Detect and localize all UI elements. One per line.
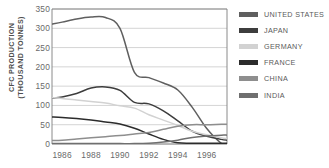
x-tick-label: 1992 xyxy=(139,150,158,160)
legend-item-label: UNITED STATES xyxy=(264,10,324,19)
legend-item[interactable]: GERMANY xyxy=(239,38,329,54)
x-tick-label: 1990 xyxy=(110,150,129,160)
legend-item[interactable]: JAPAN xyxy=(239,22,329,38)
legend: UNITED STATESJAPANGERMANYFRANCECHINAINDI… xyxy=(239,6,329,103)
legend-swatch-icon xyxy=(239,28,258,33)
legend-swatch-icon xyxy=(239,93,258,98)
legend-item-label: FRANCE xyxy=(264,58,296,67)
x-tick-label: 1988 xyxy=(81,150,100,160)
legend-swatch-icon xyxy=(239,60,258,65)
x-tick-label: 1986 xyxy=(52,150,71,160)
cfc-production-line-chart: CFC PRODUCTION(THOUSAND TONNES) 05010015… xyxy=(0,0,329,168)
legend-item[interactable]: UNITED STATES xyxy=(239,6,329,22)
legend-item-label: INDIA xyxy=(264,91,285,100)
legend-item-label: GERMANY xyxy=(264,42,303,51)
series-line-japan xyxy=(52,87,227,140)
legend-item[interactable]: FRANCE xyxy=(239,55,329,71)
legend-item-label: CHINA xyxy=(264,74,288,83)
legend-item-label: JAPAN xyxy=(264,26,288,35)
series-lines xyxy=(52,16,227,144)
legend-swatch-icon xyxy=(239,76,258,81)
series-line-china xyxy=(52,124,227,140)
legend-item[interactable]: CHINA xyxy=(239,71,329,87)
legend-item[interactable]: INDIA xyxy=(239,87,329,103)
legend-swatch-icon xyxy=(239,44,258,49)
x-tick-label: 1996 xyxy=(197,150,216,160)
x-tick-label: 1994 xyxy=(168,150,187,160)
legend-swatch-icon xyxy=(239,12,258,17)
